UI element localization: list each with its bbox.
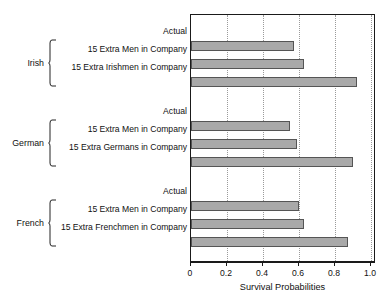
bar-irish-2 <box>191 77 357 87</box>
x-tick-label: 0.8 <box>328 268 340 278</box>
gridline-0.8 <box>335 15 336 261</box>
group-brace-french <box>48 199 57 247</box>
x-tick-label: 0 <box>188 268 193 278</box>
x-tick <box>226 262 227 266</box>
x-tick-label: 0.6 <box>292 268 304 278</box>
group-label-german: German <box>0 138 44 148</box>
bar-german-1 <box>191 139 297 149</box>
x-tick-label: 1.0 <box>364 268 376 278</box>
group-label-irish: Irish <box>0 58 44 68</box>
x-tick <box>262 262 263 266</box>
bar-german-0 <box>191 121 290 131</box>
x-axis-title: Survival Probabilities <box>190 282 375 293</box>
category-label: Actual <box>27 186 187 196</box>
group-brace-irish <box>48 39 57 87</box>
survival-probabilities-bar-chart: Actual15 Extra Men in Company15 Extra Ir… <box>0 0 390 303</box>
bar-german-2 <box>191 157 353 167</box>
x-tick <box>298 262 299 266</box>
bar-irish-0 <box>191 41 294 51</box>
category-label: Actual <box>27 106 187 116</box>
plot-area <box>190 14 375 262</box>
group-brace-german <box>48 119 57 167</box>
x-tick-label: 0.2 <box>220 268 232 278</box>
bar-french-2 <box>191 237 348 247</box>
x-tick <box>334 262 335 266</box>
bar-french-1 <box>191 219 304 229</box>
x-tick <box>190 262 191 266</box>
x-tick-label: 0.4 <box>256 268 268 278</box>
category-label: Actual <box>27 26 187 36</box>
bar-french-0 <box>191 201 299 211</box>
x-axis-line <box>190 262 375 263</box>
gridline-1.0 <box>371 15 372 261</box>
group-label-french: French <box>0 218 44 228</box>
x-tick <box>370 262 371 266</box>
bar-irish-1 <box>191 59 304 69</box>
